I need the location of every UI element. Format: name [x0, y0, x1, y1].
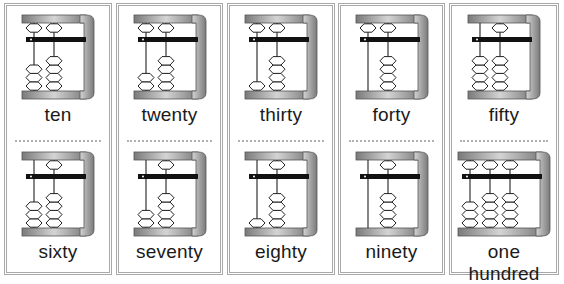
card-column-5: fifty one hundred [449, 3, 559, 275]
card-column-4: forty ninety [338, 3, 445, 275]
abacus-icon [243, 13, 319, 105]
dotted-divider [127, 140, 212, 142]
number-word-label: one hundred [452, 241, 556, 284]
dotted-divider [349, 140, 434, 142]
flashcard-one-hundred: one hundred [452, 143, 556, 278]
card-column-1: ten sixty [4, 3, 112, 275]
number-word-label: seventy [119, 241, 220, 263]
abacus-icon [132, 13, 208, 105]
abacus-icon [20, 150, 96, 242]
flashcard-eighty: eighty [230, 143, 332, 278]
dotted-divider [15, 140, 101, 142]
number-word-label: eighty [230, 241, 332, 263]
flashcard-fifty: fifty [452, 6, 556, 141]
flashcard-seventy: seventy [119, 143, 220, 278]
abacus-icon [132, 150, 208, 242]
flashcard-thirty: thirty [230, 6, 332, 141]
abacus-icon [456, 150, 552, 242]
number-word-label: twenty [119, 104, 220, 126]
dotted-divider [238, 140, 324, 142]
number-word-label: ninety [341, 241, 442, 263]
flashcard-ninety: ninety [341, 143, 442, 278]
flashcard-sixty: sixty [7, 143, 109, 278]
number-word-label: forty [341, 104, 442, 126]
abacus-icon [466, 13, 542, 105]
abacus-icon [20, 13, 96, 105]
flashcard-ten: ten [7, 6, 109, 141]
abacus-icon [243, 150, 319, 242]
card-column-2: twenty seventy [116, 3, 223, 275]
card-column-3: thirty eighty [227, 3, 335, 275]
dotted-divider [460, 140, 548, 142]
abacus-icon [354, 150, 430, 242]
flashcard-twenty: twenty [119, 6, 220, 141]
abacus-icon [354, 13, 430, 105]
number-word-label: fifty [452, 104, 556, 126]
number-word-label: thirty [230, 104, 332, 126]
flashcard-forty: forty [341, 6, 442, 141]
number-word-label: ten [7, 104, 109, 126]
number-word-label: sixty [7, 241, 109, 263]
